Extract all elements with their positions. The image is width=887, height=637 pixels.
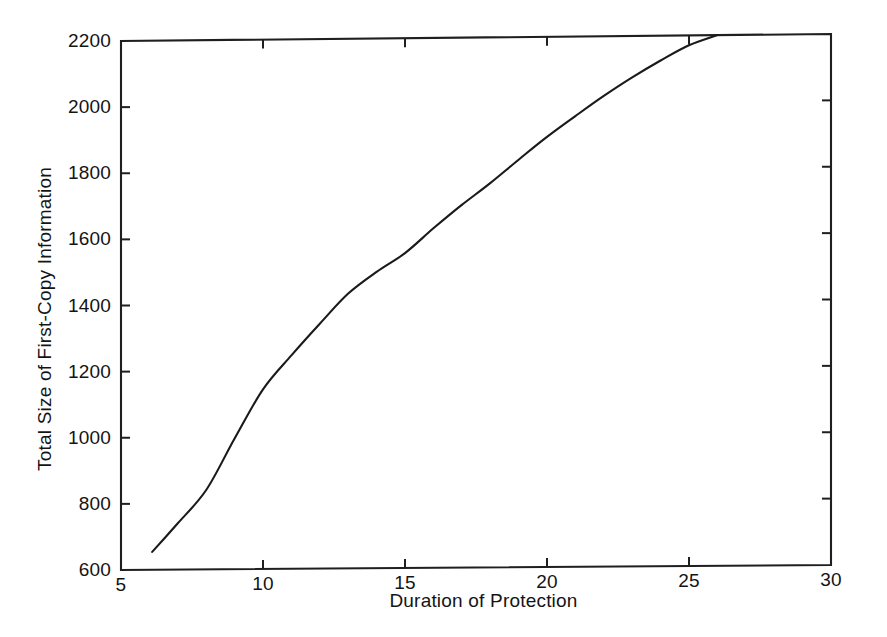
y-tick-label: 800 [79,493,111,515]
x-axis-title: Duration of Protection [389,590,577,612]
y-axis-title: Total Size of First-Copy Information [34,167,56,471]
x-tick-label: 5 [116,574,127,596]
y-axis-ticks-right [822,100,831,498]
y-tick-label: 2200 [68,30,111,52]
x-tick-label: 25 [678,570,700,592]
y-tick-label: 1400 [68,295,111,317]
plot-canvas [0,0,887,637]
axis-frame [121,34,831,570]
x-tick-label: 10 [252,573,274,595]
y-tick-label: 1200 [68,361,111,383]
x-tick-label: 30 [820,569,842,591]
data-series-line [152,35,717,552]
y-tick-label: 1600 [68,228,111,250]
y-tick-label: 1000 [68,427,111,449]
y-tick-label: 2000 [68,96,111,118]
y-tick-label: 600 [79,559,111,581]
y-axis-ticks [121,107,130,504]
chart-figure: 6008001000120014001600180020002200 51015… [0,0,887,637]
y-tick-label: 1800 [68,162,111,184]
